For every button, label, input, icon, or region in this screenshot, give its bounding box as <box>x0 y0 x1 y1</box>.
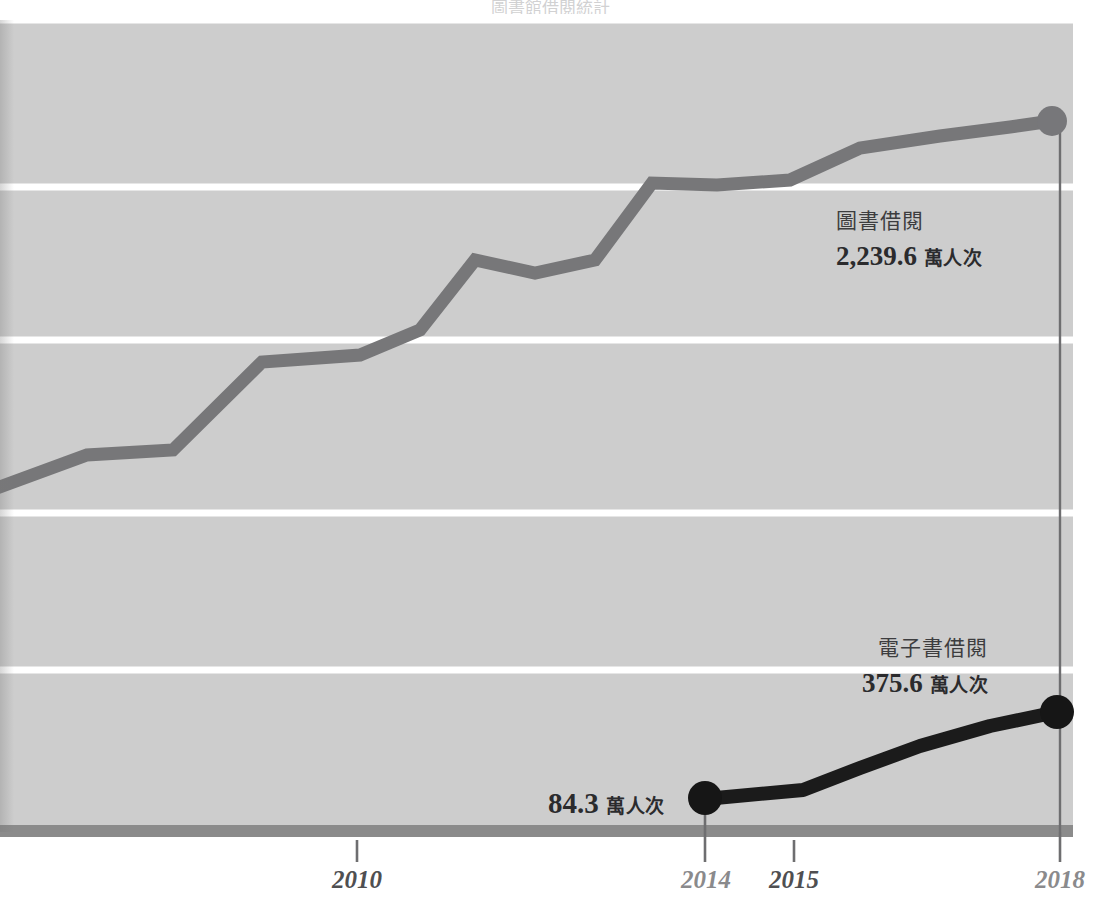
x-tick-label-2018: 2018 <box>1034 866 1086 893</box>
annotation-ebooks-value-row: 375.6 萬人次 <box>862 664 988 703</box>
chart-page: 圖書館借閱統計 2010 2014 2015 2018 <box>0 0 1101 913</box>
annotation-books-value-row: 2,239.6 萬人次 <box>836 237 982 276</box>
endpoint-dot-ebooks <box>1040 695 1074 729</box>
annotation-ebooks-2014-unit: 萬人次 <box>606 796 665 817</box>
x-tick-label-2014: 2014 <box>680 866 731 893</box>
annotation-ebooks-label: 電子書借閱 <box>862 632 988 664</box>
x-tick-label-2015: 2015 <box>768 866 819 893</box>
annotation-books-label: 圖書借閱 <box>836 205 982 237</box>
x-tick-label-2010: 2010 <box>331 866 383 893</box>
annotation-books-value: 2,239.6 <box>836 241 917 271</box>
annotation-ebooks-2014-value: 84.3 <box>548 787 599 819</box>
line-chart: 2010 2014 2015 2018 <box>0 0 1101 913</box>
annotation-ebooks-unit: 萬人次 <box>930 675 989 696</box>
annotation-books: 圖書借閱 2,239.6 萬人次 <box>836 205 982 276</box>
annotation-books-unit: 萬人次 <box>924 248 983 269</box>
x-axis-labels: 2010 2014 2015 2018 <box>331 866 1086 893</box>
annotation-ebooks: 電子書借閱 375.6 萬人次 <box>862 632 988 703</box>
x-axis-bar <box>0 825 1073 837</box>
endpoint-dot-books <box>1037 106 1067 136</box>
datapoint-dot-ebooks-2014 <box>688 781 722 815</box>
annotation-ebooks-2014-value-row: 84.3 萬人次 <box>548 782 665 824</box>
annotation-ebooks-2014: 84.3 萬人次 <box>548 782 665 824</box>
annotation-ebooks-value: 375.6 <box>862 668 923 698</box>
